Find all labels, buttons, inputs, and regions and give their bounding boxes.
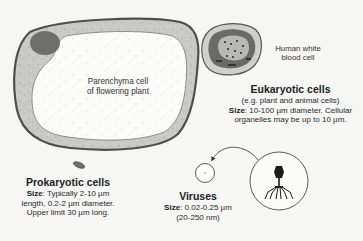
eukaryotic-size-line2: organelles may be up to 10 µm. <box>218 115 363 124</box>
prokaryotic-size-line1: Size: Typically 2-10 µm <box>8 189 128 198</box>
cell-size-diagram: Parenchyma cell of flowering plant Human… <box>0 0 363 241</box>
white-blood-cell-label: Human white blood cell <box>268 44 328 62</box>
bacteriophage-icon <box>250 152 308 210</box>
wbc-label-line2: blood cell <box>268 53 328 62</box>
eukaryotic-size-text: : 10-100 µm diameter. Cellular <box>245 106 352 115</box>
size-label: Size <box>27 189 43 198</box>
viruses-size-text: : 0.02-0.25 µm <box>180 203 232 212</box>
virus-scale-circle-icon <box>196 164 215 183</box>
eukaryotic-caption: Eukaryotic cells (e.g. plant and animal … <box>218 83 363 125</box>
prokaryotic-caption: Prokaryotic cells Size: Typically 2-10 µ… <box>8 176 128 218</box>
nucleus-icon <box>30 31 60 55</box>
eukaryotic-subtitle: (e.g. plant and animal cells) <box>218 96 363 105</box>
prokaryotic-size-line2: length, 0.2-2 µm diameter. <box>8 199 128 208</box>
prokaryotic-size-text: : Typically 2-10 µm <box>43 189 110 198</box>
viruses-caption: Viruses Size: 0.02-0.25 µm (20-250 nm) <box>152 190 244 222</box>
prokaryotic-title: Prokaryotic cells <box>8 176 128 188</box>
curved-arrow-icon <box>212 147 258 160</box>
viruses-size-line2: (20-250 nm) <box>152 213 244 222</box>
viruses-title: Viruses <box>152 190 244 202</box>
prokaryotic-size-line3: Upper limit 30 µm long. <box>8 208 128 217</box>
eukaryotic-title: Eukaryotic cells <box>218 83 363 95</box>
plant-cell-label-line2: of flowering plant <box>68 87 168 97</box>
size-label: Size <box>164 203 180 212</box>
size-label: Size <box>229 106 245 115</box>
plant-cell-label-line1: Parenchyma cell <box>68 77 168 87</box>
plant-cell-label: Parenchyma cell of flowering plant <box>68 77 168 96</box>
bacterium-icon <box>72 160 85 169</box>
white-blood-cell-icon <box>202 24 262 75</box>
viruses-size-line1: Size: 0.02-0.25 µm <box>152 203 244 212</box>
wbc-label-line1: Human white <box>268 44 328 53</box>
eukaryotic-size-line1: Size: 10-100 µm diameter. Cellular <box>218 106 363 115</box>
